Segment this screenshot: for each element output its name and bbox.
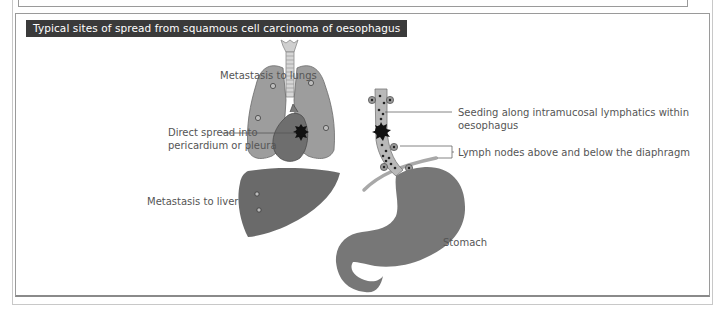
stomach-icon [336, 167, 465, 292]
label-seeding-line1: Seeding along intramucosal lymphatics wi… [458, 106, 689, 119]
label-stomach: Stomach [443, 236, 487, 249]
label-direct-spread-line2: pericardium or pleura [168, 139, 277, 152]
liver-icon [238, 168, 340, 237]
label-seeding-line2: oesophagus [458, 119, 518, 132]
leader-lines [385, 112, 454, 158]
label-direct-spread-line1: Direct spread into [168, 126, 258, 139]
label-metastasis-liver: Metastasis to liver [147, 195, 238, 208]
label-metastasis-lungs: Metastasis to lungs [220, 69, 317, 82]
label-lymph-nodes: Lymph nodes above and below the diaphrag… [458, 146, 690, 159]
